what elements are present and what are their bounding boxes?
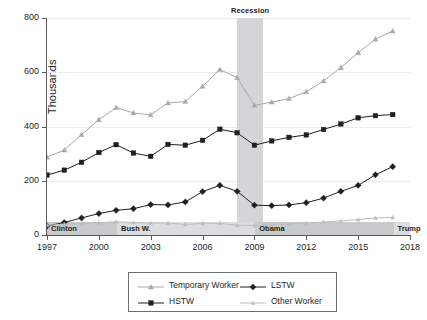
legend-item-hstw[interactable]: HSTW: [137, 293, 194, 309]
data-point: [199, 189, 205, 195]
y-axis-tick-label: 600: [5, 67, 39, 76]
data-point: [96, 210, 102, 216]
data-point: [148, 154, 153, 159]
y-axis-tick-label: 800: [5, 13, 39, 22]
data-point: [131, 151, 136, 156]
data-point: [96, 117, 101, 122]
x-axis-tick-label: 1997: [27, 242, 67, 252]
series-line: [47, 31, 393, 157]
data-point: [165, 202, 171, 208]
x-axis-tick-label: 2009: [234, 242, 274, 252]
data-point: [149, 301, 154, 306]
legend-swatch: [239, 279, 267, 291]
legend-swatch: [239, 295, 267, 307]
x-axis-tick: [47, 235, 48, 240]
data-point: [287, 135, 292, 140]
y-axis-tick-label: 0: [5, 230, 39, 239]
data-point: [183, 143, 188, 148]
legend-label: Temporary Worker: [169, 280, 239, 290]
data-point: [390, 164, 396, 170]
x-axis-tick: [99, 235, 100, 240]
series-line: [47, 167, 393, 226]
x-axis-tick: [410, 235, 411, 240]
data-point: [166, 142, 171, 147]
legend-label: Other Worker: [271, 296, 322, 306]
data-point: [373, 113, 378, 118]
data-point: [182, 199, 188, 205]
x-axis-tick-label: 2015: [338, 242, 378, 252]
data-point: [339, 122, 344, 127]
data-point: [218, 127, 223, 132]
data-point: [200, 138, 205, 143]
data-point: [304, 89, 309, 94]
data-point: [250, 284, 256, 290]
data-point: [303, 200, 309, 206]
data-point: [269, 139, 274, 144]
data-point: [217, 67, 222, 72]
data-point: [286, 202, 292, 208]
data-point: [97, 150, 102, 155]
series-lines: [47, 18, 410, 235]
legend-item-lstw[interactable]: LSTW: [239, 277, 295, 293]
data-point: [390, 112, 395, 117]
x-axis-tick: [203, 235, 204, 240]
x-axis-tick: [306, 235, 307, 240]
y-axis-tick-label: 400: [5, 122, 39, 131]
legend-swatch: [137, 279, 165, 291]
x-axis-tick-label: 2000: [79, 242, 119, 252]
data-point: [148, 202, 154, 208]
data-point: [372, 172, 378, 178]
x-axis-tick: [151, 235, 152, 240]
data-point: [130, 206, 136, 212]
data-point: [79, 160, 84, 165]
data-point: [338, 188, 344, 194]
y-axis-tick-label: 200: [5, 176, 39, 185]
data-point: [356, 116, 361, 121]
data-point: [47, 173, 49, 178]
data-point: [373, 37, 378, 42]
plot-area: Thousands 0200400600800 Recession Clinto…: [47, 18, 410, 235]
data-point: [217, 182, 223, 188]
data-point: [235, 130, 240, 135]
legend-label: LSTW: [271, 280, 295, 290]
x-axis-tick-label: 2018: [390, 242, 427, 252]
data-point: [114, 142, 119, 147]
data-point: [320, 195, 326, 201]
legend-swatch: [137, 295, 165, 307]
recession-label: Recession: [231, 6, 269, 15]
x-axis-tick-label: 2012: [286, 242, 326, 252]
series-lstw: [47, 164, 396, 230]
data-point: [113, 207, 119, 213]
data-point: [269, 203, 275, 209]
data-point: [78, 215, 84, 221]
data-point: [114, 105, 119, 110]
data-point: [390, 28, 395, 33]
chart-legend: Temporary WorkerLSTWHSTWOther Worker: [128, 272, 337, 312]
x-axis-tick-label: 2003: [131, 242, 171, 252]
legend-item-other-worker[interactable]: Other Worker: [239, 293, 322, 309]
legend-label: HSTW: [169, 296, 194, 306]
data-point: [47, 155, 50, 160]
data-point: [252, 143, 257, 148]
chart-root: Thousands 0200400600800 Recession Clinto…: [0, 0, 427, 320]
series-hstw: [47, 112, 395, 177]
series-other-worker: [47, 215, 395, 227]
x-axis-tick: [254, 235, 255, 240]
data-point: [355, 182, 361, 188]
legend-item-temporary-worker[interactable]: Temporary Worker: [137, 277, 239, 293]
series-temporary-worker: [47, 28, 395, 159]
x-axis-tick-label: 2006: [183, 242, 223, 252]
data-point: [321, 127, 326, 132]
data-point: [304, 133, 309, 138]
data-point: [62, 168, 67, 173]
x-axis-tick: [358, 235, 359, 240]
x-axis-line: [46, 235, 411, 236]
